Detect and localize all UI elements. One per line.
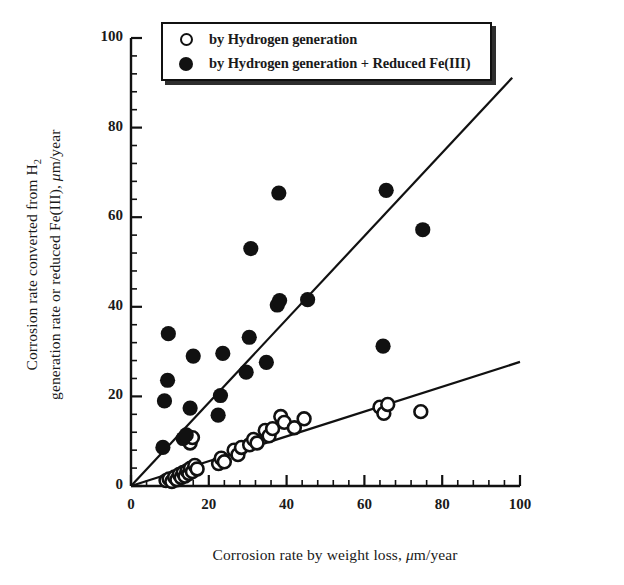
y-tick-label-80: 80 [79,118,123,135]
data-point [243,241,258,256]
x-tick-label-80: 80 [422,496,462,513]
figure-canvas: Corrosion rate converted from H2 generat… [0,0,624,585]
x-tick-label-100: 100 [500,496,540,513]
plot-area [131,38,520,486]
data-point [215,346,230,361]
filled-circle-marker [163,57,209,71]
data-point [271,185,286,200]
y-tick-label-60: 60 [79,207,123,224]
data-point [239,365,254,380]
legend-label-open: by Hydrogen generation [209,31,357,48]
data-point [211,408,226,423]
y-tick-label-20: 20 [79,386,123,403]
data-point [272,293,287,308]
data-point [218,455,231,468]
y-axis-title-line1: Corrosion rate converted from H2 [23,159,40,371]
data-point [298,412,311,425]
legend-entry-open: by Hydrogen generation [163,27,357,52]
y-axis-title-line2: generation rate or reduced Fe(III), μm/y… [45,35,65,495]
legend-box: by Hydrogen generation by Hydrogen gener… [161,22,492,81]
data-point [157,393,172,408]
legend-label-filled: by Hydrogen generation + Reduced Fe(III) [209,55,470,72]
data-point [191,463,204,476]
data-point [161,326,176,341]
y-tick-label-0: 0 [79,476,123,493]
x-tick-label-60: 60 [344,496,384,513]
data-point [375,339,390,354]
y-tick-label-100: 100 [79,28,123,45]
y-tick-label-40: 40 [79,297,123,314]
y-axis-title: Corrosion rate converted from H2 generat… [22,35,65,495]
x-tick-label-0: 0 [111,496,151,513]
x-tick-label-20: 20 [189,496,229,513]
data-point [242,330,257,345]
legend-entry-filled: by Hydrogen generation + Reduced Fe(III) [163,51,470,76]
data-point [414,405,427,418]
data-point [300,292,315,307]
x-axis-title: Corrosion rate by weight loss, μm/year [100,546,570,564]
scatter-plot-svg [131,38,520,486]
data-point [213,388,228,403]
data-point [183,400,198,415]
data-point [160,373,175,388]
data-point [251,437,264,450]
data-point [415,222,430,237]
data-point [179,427,194,442]
open-circle-marker [163,33,209,46]
data-point [186,348,201,363]
data-point [155,440,170,455]
data-point [379,183,394,198]
x-tick-label-40: 40 [267,496,307,513]
data-point [259,355,274,370]
data-point [381,398,394,411]
